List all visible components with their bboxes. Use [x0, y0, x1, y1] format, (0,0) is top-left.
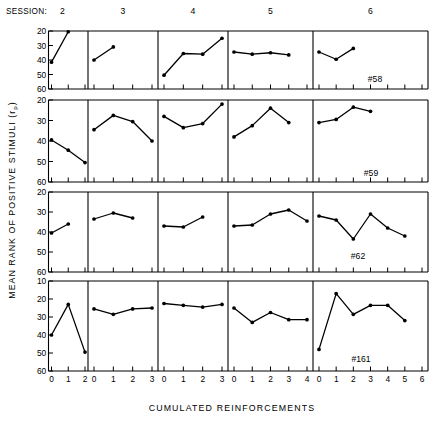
data-point: [92, 217, 96, 221]
series-line-s62-session-2: [52, 224, 69, 233]
data-point: [83, 161, 87, 165]
data-point: [334, 218, 338, 222]
data-point: [66, 222, 70, 226]
data-point: [351, 237, 355, 241]
data-point: [131, 120, 135, 124]
subject-label-62: #62: [351, 251, 366, 261]
data-point: [181, 126, 185, 130]
data-point: [162, 224, 166, 228]
data-point: [269, 212, 273, 216]
y-tick-label: 60: [37, 177, 47, 187]
data-point: [111, 312, 115, 316]
data-point: [317, 348, 321, 352]
data-point: [131, 307, 135, 311]
series-line-s58-session-3: [94, 47, 113, 60]
data-point: [369, 212, 373, 216]
x-tick-label: 0: [232, 374, 237, 384]
figure-container: SESSION:234562030405060#582030405060#592…: [0, 0, 444, 431]
x-tick-label: 1: [181, 374, 186, 384]
data-point: [50, 333, 54, 337]
y-tick-label: 10: [37, 276, 47, 286]
data-point: [66, 303, 70, 307]
x-tick-label: 3: [286, 374, 291, 384]
y-tick-label: 40: [37, 136, 47, 146]
data-point: [334, 57, 338, 61]
y-tick-label: 20: [37, 95, 47, 105]
data-point: [111, 45, 115, 49]
data-point: [305, 219, 309, 223]
data-point: [131, 216, 135, 220]
y-tick-label: 20: [37, 294, 47, 304]
data-point: [386, 303, 390, 307]
data-point: [66, 30, 70, 34]
data-point: [269, 106, 273, 110]
data-point: [162, 115, 166, 119]
multi-panel-line-chart: SESSION:234562030405060#582030405060#592…: [0, 0, 444, 431]
data-point: [220, 303, 224, 307]
series-line-s58-session-4: [164, 38, 222, 75]
series-line-s161-session-6: [319, 294, 405, 350]
data-point: [92, 128, 96, 132]
series-line-s59-session-5: [234, 108, 289, 137]
data-point: [50, 60, 54, 64]
data-point: [150, 139, 154, 143]
y-tick-label: 60: [37, 84, 47, 94]
series-line-s161-session-2: [52, 304, 86, 352]
data-point: [232, 224, 236, 228]
data-point: [269, 311, 273, 315]
data-point: [162, 73, 166, 77]
data-point: [150, 306, 154, 310]
series-line-s58-session-5: [234, 52, 289, 55]
data-point: [181, 52, 185, 56]
data-point: [50, 231, 54, 235]
session-header-2: 2: [60, 6, 65, 16]
x-tick-label: 2: [83, 374, 88, 384]
x-tick-label: 2: [200, 374, 205, 384]
x-tick-label: 2: [130, 374, 135, 384]
data-point: [201, 305, 205, 309]
subject-label-59: #59: [364, 168, 379, 178]
data-point: [250, 124, 254, 128]
data-point: [220, 102, 224, 106]
session-axis-label: SESSION:: [6, 7, 47, 16]
data-point: [317, 121, 321, 125]
y-tick-label: 30: [37, 116, 47, 126]
y-tick-label: 50: [37, 70, 47, 80]
data-point: [201, 52, 205, 56]
data-point: [92, 58, 96, 62]
data-point: [66, 148, 70, 152]
x-tick-label: 3: [220, 374, 225, 384]
data-point: [287, 318, 291, 322]
series-line-s58-session-2: [52, 32, 69, 62]
data-point: [317, 50, 321, 54]
data-point: [83, 350, 87, 354]
data-point: [250, 52, 254, 56]
series-line-s161-session-4: [164, 304, 222, 308]
data-point: [162, 302, 166, 306]
x-tick-label: 2: [268, 374, 273, 384]
data-point: [287, 53, 291, 57]
y-tick-label: 30: [37, 41, 47, 51]
data-point: [369, 303, 373, 307]
series-line-s161-session-3: [94, 308, 152, 314]
series-line-s59-session-4: [164, 104, 222, 128]
session-header-3: 3: [121, 6, 126, 16]
y-axis-title: MEAN RANK OF POSITIVE STIMULI (rp): [7, 101, 18, 299]
y-tick-label: 50: [37, 348, 47, 358]
data-point: [386, 226, 390, 230]
data-point: [334, 292, 338, 296]
data-point: [111, 211, 115, 215]
data-point: [287, 208, 291, 212]
data-point: [181, 225, 185, 229]
series-line-s59-session-6: [319, 107, 371, 122]
data-point: [287, 121, 291, 125]
data-point: [111, 114, 115, 118]
data-point: [351, 105, 355, 109]
data-point: [351, 312, 355, 316]
data-point: [232, 50, 236, 54]
data-point: [403, 319, 407, 323]
x-tick-label: 4: [305, 374, 310, 384]
x-axis-title: CUMULATED REINFORCEMENTS: [149, 403, 316, 413]
data-point: [232, 135, 236, 139]
y-tick-label: 30: [37, 207, 47, 217]
